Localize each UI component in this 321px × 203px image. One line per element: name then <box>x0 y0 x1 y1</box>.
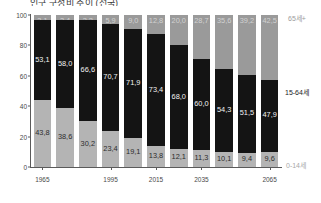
bar-segment-15-64세: 68,0 <box>170 45 188 148</box>
bar-value-label: 9,4 <box>242 155 252 162</box>
bar-value-label: 73,4 <box>149 86 163 93</box>
y-axis-tick-mark <box>28 136 31 137</box>
bar-segment-15-64세: 70,7 <box>102 24 120 131</box>
bar-value-label: 53,1 <box>35 56 49 63</box>
bar-segment-0-14세: 23,4 <box>102 131 120 167</box>
bar-value-label: 58,0 <box>58 60 72 67</box>
bar-1965: 3,153,143,8 <box>34 15 52 167</box>
y-axis-tick-label: 20 <box>20 133 27 140</box>
bar-segment-65세+: 5,9 <box>102 15 120 24</box>
bar-segment-15-64세: 60,0 <box>193 59 211 150</box>
y-axis-tick-label: 40 <box>20 103 27 110</box>
bar-value-label: 71,9 <box>126 79 140 86</box>
bar-value-label: 38,6 <box>58 133 72 140</box>
x-axis-tick-mark <box>156 167 157 170</box>
bar-value-label: 5,9 <box>105 17 115 24</box>
bar-segment-65세+: 20,0 <box>170 15 188 45</box>
bar-value-label: 13,8 <box>149 152 163 159</box>
bar-segment-15-64세: 73,4 <box>147 34 165 146</box>
bar-segment-0-14세: 11,3 <box>193 150 211 167</box>
bar-segment-65세+: 28,7 <box>193 15 211 59</box>
x-axis-tick-label: 1965 <box>35 176 49 183</box>
legend-item-65-plus: 65세+ <box>288 13 306 23</box>
bar-2005: 9,071,919,1 <box>124 15 142 167</box>
bar-value-label: 23,4 <box>103 145 117 152</box>
x-axis-tick-mark <box>201 167 202 170</box>
bar-value-label: 19,1 <box>126 148 140 155</box>
bar-value-label: 43,8 <box>35 129 49 136</box>
bar-value-label: 10,1 <box>217 155 231 162</box>
bar-value-label: 30,2 <box>81 140 95 147</box>
bar-value-label: 12,8 <box>149 17 163 24</box>
bar-1975: 3,458,038,6 <box>56 15 74 167</box>
y-axis-tick-mark <box>28 75 31 76</box>
bar-segment-15-64세: 47,9 <box>261 80 279 153</box>
bar-segment-15-64세: 71,9 <box>124 29 142 138</box>
x-axis-tick-mark <box>42 167 43 170</box>
bar-2025: 20,068,012,1 <box>170 15 188 167</box>
bar-value-label: 12,1 <box>172 153 186 160</box>
y-axis-tick-label: 0 <box>23 164 27 171</box>
x-axis-tick-mark <box>270 167 271 170</box>
legend-item-0-14: 0-14세 <box>286 160 306 170</box>
bar-segment-0-14세: 38,6 <box>56 108 74 167</box>
bar-2015: 12,873,413,8 <box>147 15 165 167</box>
bar-segment-0-14세: 13,8 <box>147 146 165 167</box>
bar-2035: 28,760,011,3 <box>193 15 211 167</box>
bar-segment-65세+: 35,6 <box>215 15 233 69</box>
y-axis-tick-mark <box>28 45 31 46</box>
bar-segment-0-14세: 19,1 <box>124 138 142 167</box>
bar-value-label: 54,3 <box>217 106 231 113</box>
bar-value-label: 9,0 <box>128 17 138 24</box>
bar-value-label: 68,0 <box>172 93 186 100</box>
chart-title: 인구 구성비 추이 (전국) <box>30 0 230 6</box>
x-axis-tick-label: 2065 <box>262 176 276 183</box>
bar-segment-65세+: 9,0 <box>124 15 142 29</box>
bar-segment-65세+: 39,2 <box>238 15 256 75</box>
bar-value-label: 51,5 <box>240 109 254 116</box>
bar-segment-0-14세: 10,1 <box>215 152 233 167</box>
bar-segment-0-14세: 43,8 <box>34 100 52 167</box>
x-axis-tick-label: 2015 <box>149 176 163 183</box>
plot-area: 0204060801003,153,143,83,458,038,63,266,… <box>31 15 281 167</box>
bar-2045: 35,654,310,1 <box>215 15 233 167</box>
bar-segment-15-64세: 54,3 <box>215 69 233 152</box>
y-axis-tick-label: 100 <box>16 12 27 19</box>
bar-segment-15-64세: 53,1 <box>34 20 52 101</box>
bar-2065: 42,547,99,6 <box>261 15 279 167</box>
x-axis-tick-label: 2035 <box>194 176 208 183</box>
bar-value-label: 35,6 <box>217 17 231 24</box>
bar-value-label: 47,9 <box>262 111 276 118</box>
bar-value-label: 9,6 <box>264 155 274 162</box>
bar-segment-15-64세: 66,6 <box>79 20 97 121</box>
bar-1995: 5,970,723,4 <box>102 15 120 167</box>
bar-segment-15-64세: 58,0 <box>56 20 74 108</box>
bar-value-label: 70,7 <box>103 73 117 80</box>
bar-segment-0-14세: 30,2 <box>79 121 97 167</box>
bar-value-label: 20,0 <box>172 17 186 24</box>
y-axis-tick-mark <box>28 167 31 168</box>
y-axis-tick-label: 60 <box>20 72 27 79</box>
bar-segment-65세+: 42,5 <box>261 15 279 80</box>
bar-value-label: 60,0 <box>194 100 208 107</box>
bar-value-label: 39,2 <box>240 17 254 24</box>
bar-segment-15-64세: 51,5 <box>238 75 256 153</box>
bar-segment-0-14세: 12,1 <box>170 149 188 167</box>
bar-segment-0-14세: 9,4 <box>238 153 256 167</box>
bar-1985: 3,266,630,2 <box>79 15 97 167</box>
bar-segment-0-14세: 9,6 <box>261 152 279 167</box>
y-axis-tick-label: 80 <box>20 42 27 49</box>
bar-value-label: 11,3 <box>195 154 209 161</box>
bar-value-label: 66,6 <box>81 66 95 73</box>
x-axis-tick-label: 1995 <box>103 176 117 183</box>
bar-value-label: 42,5 <box>262 17 276 24</box>
population-composition-chart: 인구 구성비 추이 (전국) 0204060801003,153,143,83,… <box>0 0 321 203</box>
y-axis-tick-mark <box>28 15 31 16</box>
bar-segment-65세+: 12,8 <box>147 15 165 34</box>
bar-2055: 39,251,59,4 <box>238 15 256 167</box>
y-axis-tick-mark <box>28 106 31 107</box>
bar-value-label: 28,7 <box>194 17 208 24</box>
x-axis-tick-mark <box>111 167 112 170</box>
legend-item-15-64: 15-64세 <box>285 87 309 97</box>
